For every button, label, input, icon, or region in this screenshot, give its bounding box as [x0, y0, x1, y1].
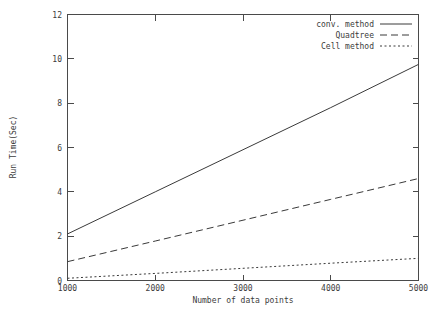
- y-tick-label: 6: [57, 144, 62, 153]
- x-tick-label: 3000: [233, 284, 252, 293]
- y-tick-labels: 0 2 4 6 8 10 12: [52, 11, 62, 286]
- y-tick-label: 2: [57, 232, 62, 241]
- data-series-group: [68, 64, 419, 278]
- series-line-quadtree: [68, 179, 419, 262]
- y-axis-title: Run Time(Sec): [9, 116, 18, 179]
- x-tick-label: 4000: [321, 284, 340, 293]
- legend: conv. method Quadtree Cell method: [316, 20, 412, 51]
- legend-label-conv-method: conv. method: [316, 20, 374, 29]
- chart-canvas: 0 2 4 6 8 10 12 1000 2000 3000 4000 5000…: [0, 0, 441, 319]
- line-chart: 0 2 4 6 8 10 12 1000 2000 3000 4000 5000…: [0, 0, 441, 319]
- y-axis-ticks: [68, 15, 419, 281]
- x-tick-label: 5000: [409, 284, 428, 293]
- y-tick-label: 10: [52, 55, 62, 64]
- x-tick-label: 2000: [146, 284, 165, 293]
- x-axis-title: Number of data points: [192, 296, 293, 305]
- legend-label-cell-method: Cell method: [321, 42, 374, 51]
- legend-label-quadtree: Quadtree: [335, 31, 374, 40]
- y-tick-label: 4: [57, 188, 62, 197]
- y-tick-label: 8: [57, 99, 62, 108]
- y-tick-label: 12: [52, 11, 62, 20]
- plot-frame: [68, 15, 419, 281]
- x-tick-labels: 1000 2000 3000 4000 5000: [58, 284, 428, 293]
- x-axis-ticks: [155, 15, 331, 281]
- x-tick-label: 1000: [58, 284, 77, 293]
- series-line-conv-method: [68, 64, 419, 234]
